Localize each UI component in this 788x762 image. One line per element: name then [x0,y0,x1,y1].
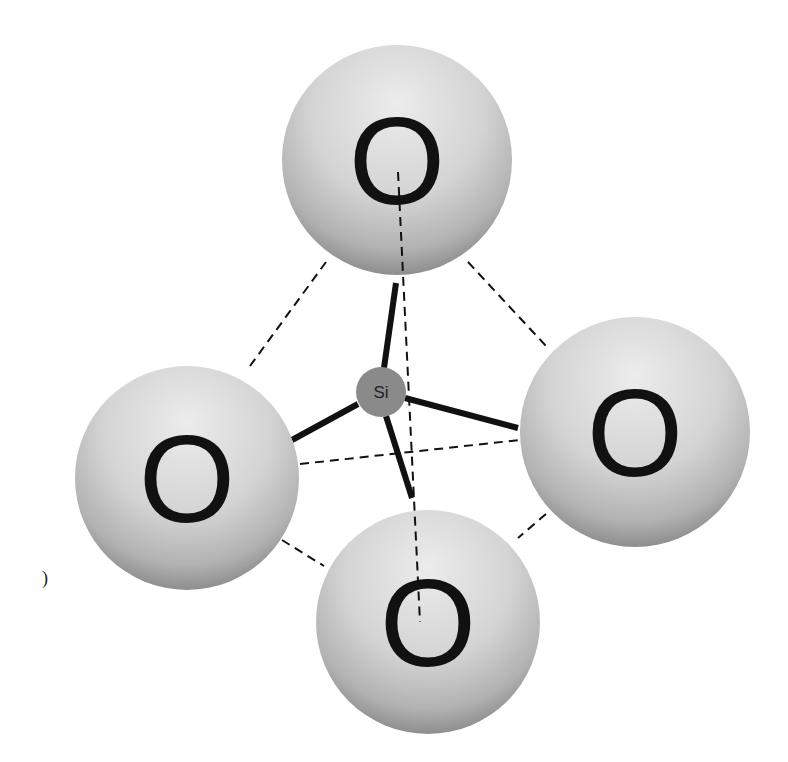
oxygen-atom-top: O [282,45,512,275]
bond-si-right [405,398,518,428]
dashed-edge-right-bottom [518,514,546,538]
dashed-edge-top-left [250,262,326,366]
silica-tetrahedron-diagram: OOOO Si [0,0,788,762]
oxygen-label: O [349,92,445,230]
oxygen-atom-bottom: O [316,510,540,734]
bond-si-bottom [386,416,412,498]
silicon-atom: Si [356,367,406,417]
oxygen-atom-left: O [75,366,299,590]
silicon-atom-label: Si [373,383,388,402]
oxygen-label: O [380,554,476,692]
bond-si-top [384,283,396,368]
oxygen-label: O [587,364,683,502]
dashed-edge-left-right [300,440,520,464]
oxygen-label: O [139,410,235,548]
dashed-edge-top-right [468,262,546,346]
dashed-edge-left-bottom [282,540,324,566]
stray-mark: ) [42,568,48,589]
oxygen-atoms: OOOO [75,45,750,734]
bond-si-left [292,404,358,440]
oxygen-atom-right: O [520,317,750,547]
